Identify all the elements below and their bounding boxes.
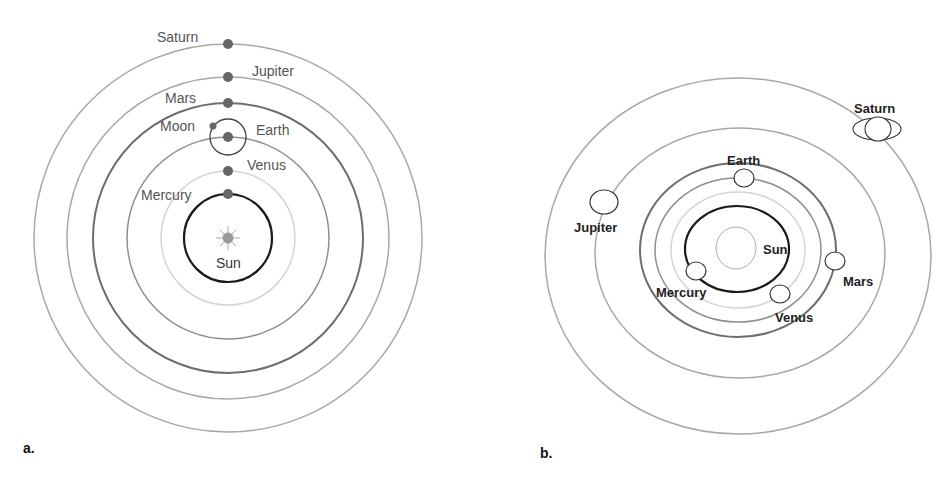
planet-venus-a [223,166,233,176]
planet-saturn-a [223,39,233,49]
planet-mercury-b [686,262,706,280]
planet-moon-a [210,123,217,130]
label-venus-a: Venus [247,157,286,173]
planet-earth-b [734,169,754,187]
solar-system-diagrams: Saturn Jupiter Mars Moon Earth Venus Mer… [0,0,950,477]
label-saturn-a: Saturn [157,29,198,45]
planet-earth-a [223,132,233,142]
label-mercury-a: Mercury [141,187,192,203]
label-mars-a: Mars [165,90,196,106]
panel-tag-b: b. [540,445,552,461]
label-mercury-b: Mercury [656,285,707,300]
label-moon-a: Moon [160,118,195,134]
label-earth-b: Earth [727,153,760,168]
sun-icon-a [216,226,240,250]
label-earth-a: Earth [256,122,289,138]
orbit-earth-b [655,178,821,322]
planet-jupiter-a [223,72,233,82]
label-jupiter-a: Jupiter [252,63,294,79]
panel-a: Saturn Jupiter Mars Moon Earth Venus Mer… [23,29,422,456]
planet-saturn-b [853,117,901,141]
planet-venus-b [770,285,790,303]
panel-tag-a: a. [23,440,35,456]
label-mars-b: Mars [843,274,873,289]
panel-b: Saturn Earth Jupiter Sun Mars Mercury Ve… [540,78,931,461]
label-jupiter-b: Jupiter [574,220,617,235]
label-sun-a: Sun [216,255,241,271]
planet-mercury-a [223,189,233,199]
planet-mars-b [825,252,845,270]
planet-mars-a [223,98,233,108]
planet-jupiter-b [590,190,618,214]
sun-b [716,227,756,269]
label-sun-b: Sun [763,242,788,257]
label-venus-b: Venus [775,310,813,325]
label-saturn-b: Saturn [854,101,895,116]
